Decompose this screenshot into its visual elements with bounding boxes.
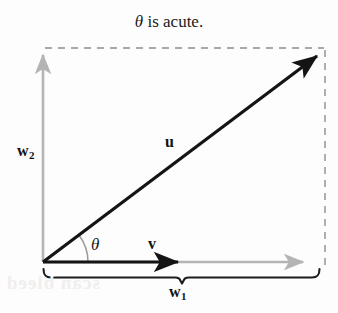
angle-arc [79, 235, 88, 262]
vector-projection-figure: θ is acute. w2 w1 u v θ scan bleed [0, 0, 338, 313]
label-w1-base: w [169, 283, 181, 300]
label-u: u [165, 134, 174, 150]
label-w2-base: w [17, 142, 29, 159]
label-w1: w1 [169, 284, 187, 302]
label-w1-subscript: 1 [181, 290, 187, 302]
vector-u-arrow [43, 56, 317, 262]
label-theta: θ [91, 236, 99, 253]
w1-underbrace [44, 269, 320, 284]
label-v: v [148, 236, 156, 252]
label-w2: w2 [17, 143, 35, 161]
label-w2-subscript: 2 [29, 149, 35, 161]
figure-canvas [0, 0, 338, 313]
